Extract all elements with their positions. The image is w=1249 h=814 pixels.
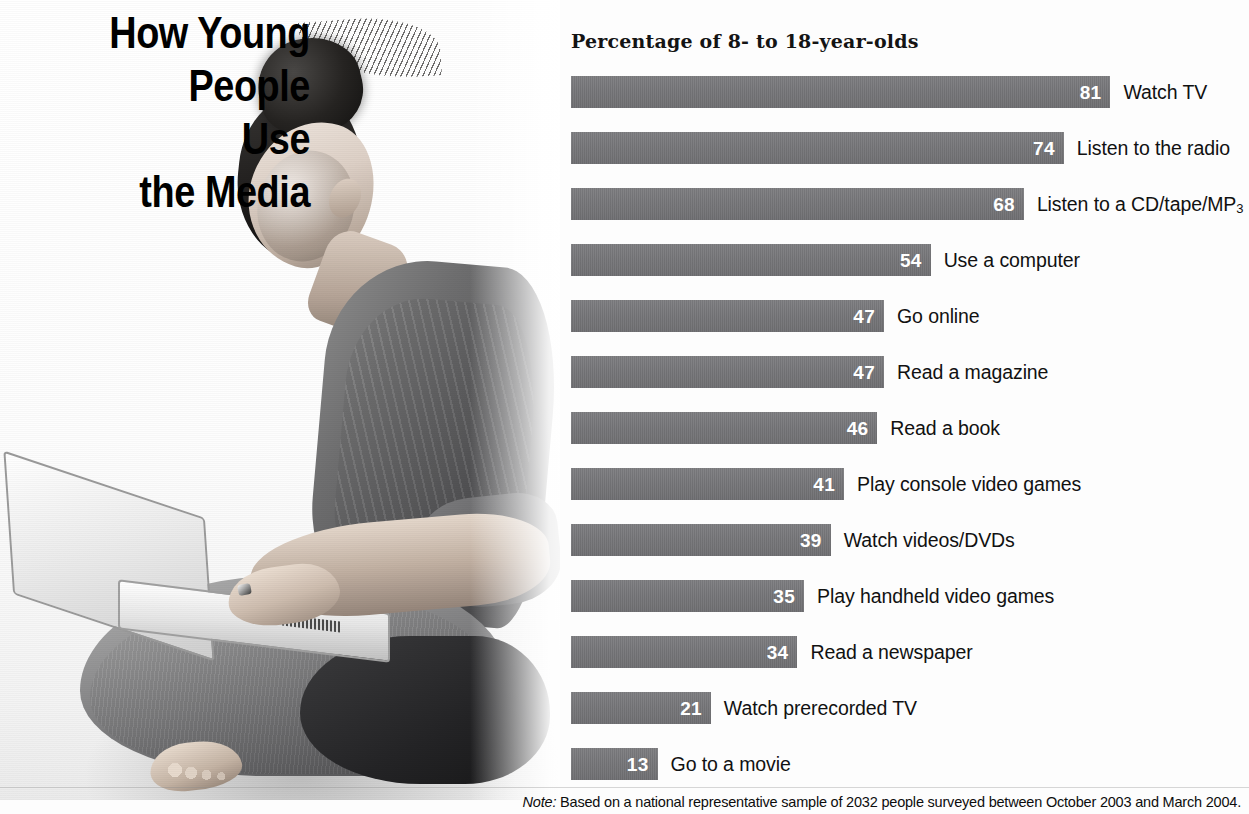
bar-0: 81: [571, 76, 1110, 108]
bar-chart: Percentage of 8- to 18-year-olds 81Watch…: [571, 0, 1249, 790]
chart-note: Note: Based on a national representative…: [0, 794, 1249, 810]
bar-row: 47Go online: [571, 300, 1249, 332]
bar-value: 81: [1080, 83, 1102, 102]
bar-12: 13: [571, 748, 658, 780]
bar-label: Go online: [897, 305, 980, 328]
photo-right-fade: [470, 0, 560, 800]
note-prefix: Note:: [523, 794, 557, 810]
bar-value: 47: [853, 307, 875, 326]
bar-4: 47: [571, 300, 884, 332]
note-divider: [0, 787, 1249, 788]
bar-label: Read a magazine: [897, 361, 1048, 384]
infographic-root: How Young People Use the Media Percentag…: [0, 0, 1249, 814]
bar-row: 68Listen to a CD/tape/MP3: [571, 188, 1249, 220]
bar-row: 81Watch TV: [571, 76, 1249, 108]
bar-value: 74: [1033, 139, 1055, 158]
bar-value: 54: [900, 251, 922, 270]
bar-label: Listen to a CD/tape/MP3: [1037, 193, 1244, 216]
bar-value: 39: [800, 531, 822, 550]
bar-row: 39Watch videos/DVDs: [571, 524, 1249, 556]
bar-3: 54: [571, 244, 931, 276]
bar-7: 41: [571, 468, 844, 500]
ring-shape: [237, 583, 252, 596]
title-line-4: the Media: [52, 165, 310, 218]
bar-6: 46: [571, 412, 877, 444]
bar-11: 21: [571, 692, 711, 724]
bar-label: Play console video games: [857, 473, 1081, 496]
bar-row: 34Read a newspaper: [571, 636, 1249, 668]
bar-row: 21Watch prerecorded TV: [571, 692, 1249, 724]
bar-label: Play handheld video games: [817, 585, 1054, 608]
bar-row: 46Read a book: [571, 412, 1249, 444]
note-text: Based on a national representative sampl…: [556, 794, 1241, 810]
bar-value: 35: [773, 587, 795, 606]
toes-shape: [168, 758, 238, 782]
bar-9: 35: [571, 580, 804, 612]
bar-row: 47Read a magazine: [571, 356, 1249, 388]
bar-rows-container: 81Watch TV74Listen to the radio68Listen …: [571, 76, 1249, 804]
bar-label: Use a computer: [944, 249, 1080, 272]
bar-value: 41: [813, 475, 835, 494]
bar-label: Watch videos/DVDs: [844, 529, 1015, 552]
bar-value: 47: [853, 363, 875, 382]
chart-heading: Percentage of 8- to 18-year-olds: [571, 30, 919, 52]
bar-value: 46: [847, 419, 869, 438]
bar-8: 39: [571, 524, 831, 556]
bar-row: 74Listen to the radio: [571, 132, 1249, 164]
bar-row: 54Use a computer: [571, 244, 1249, 276]
bar-label: Go to a movie: [671, 753, 791, 776]
bar-2: 68: [571, 188, 1024, 220]
bar-label-subscript: 3: [1236, 201, 1243, 216]
title-line-2: People: [52, 59, 310, 112]
bar-5: 47: [571, 356, 884, 388]
bar-value: 34: [767, 643, 789, 662]
page-title: How Young People Use the Media: [10, 6, 310, 218]
bar-row: 41Play console video games: [571, 468, 1249, 500]
bar-1: 74: [571, 132, 1064, 164]
title-line-3: Use: [52, 112, 310, 165]
bar-value: 68: [993, 195, 1015, 214]
bar-label: Watch prerecorded TV: [724, 697, 917, 720]
bar-value: 13: [627, 755, 649, 774]
bar-label: Watch TV: [1123, 81, 1207, 104]
bar-label: Listen to the radio: [1077, 137, 1230, 160]
bar-row: 35Play handheld video games: [571, 580, 1249, 612]
bar-value: 21: [680, 699, 702, 718]
bar-label: Read a newspaper: [810, 641, 972, 664]
bar-row: 13Go to a movie: [571, 748, 1249, 780]
title-line-1: How Young: [52, 6, 310, 59]
bar-label-main: Listen to a CD/tape/MP: [1037, 193, 1236, 215]
bar-label: Read a book: [890, 417, 999, 440]
bar-10: 34: [571, 636, 797, 668]
